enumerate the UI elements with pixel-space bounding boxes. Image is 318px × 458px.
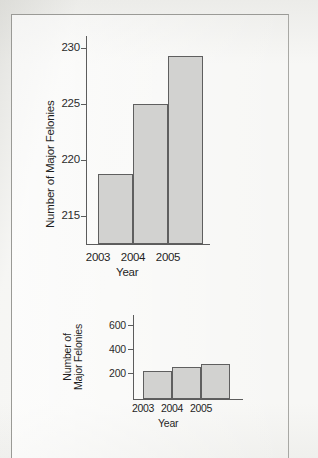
- y-tick-label-400-bottom: 400: [100, 343, 126, 355]
- bar-bottom-2004: [172, 367, 201, 399]
- y-axis-line-bottom: [133, 315, 134, 400]
- bar-chart-top: Number of Major Felonies 230 225 220 215…: [0, 0, 290, 285]
- plot-area-bottom: [133, 315, 243, 400]
- y-tick-label-200-bottom: 200: [100, 367, 126, 379]
- x-axis-title-top: Year: [116, 266, 138, 278]
- y-tick-220-top: [81, 160, 87, 161]
- y-tick-label-230-top: 230: [50, 41, 80, 53]
- y-axis-line-top: [86, 36, 87, 245]
- y-tick-label-225-top: 225: [50, 97, 80, 109]
- x-axis-line-top: [86, 244, 210, 245]
- x-axis-title-bottom: Year: [158, 417, 178, 429]
- x-axis-line-bottom: [133, 399, 243, 400]
- bar-top-2004: [133, 104, 168, 244]
- x-label-2005-top: 2005: [150, 251, 186, 263]
- bar-top-2003: [98, 174, 133, 243]
- y-tick-400-bottom: [128, 349, 134, 350]
- x-label-2004-top: 2004: [115, 251, 151, 263]
- y-axis-title-bottom: Number of Major Felonies: [62, 314, 84, 400]
- y-tick-230-top: [81, 48, 87, 49]
- x-label-2003-top: 2003: [80, 251, 116, 263]
- y-tick-label-215-top: 215: [50, 209, 80, 221]
- y-tick-215-top: [81, 216, 87, 217]
- x-label-2005-bottom: 2005: [184, 402, 218, 414]
- plot-area-top: [86, 36, 210, 245]
- y-axis-title-line2-bottom: Major Felonies: [72, 324, 84, 390]
- bar-bottom-2003: [143, 371, 172, 399]
- y-tick-label-600-bottom: 600: [100, 319, 126, 331]
- bar-top-2005: [168, 56, 203, 244]
- bar-bottom-2005: [201, 364, 230, 399]
- y-tick-225-top: [81, 104, 87, 105]
- y-tick-600-bottom: [128, 325, 134, 326]
- y-tick-200-bottom: [128, 373, 134, 374]
- bar-chart-bottom: Number of Major Felonies 600 400 200 200…: [0, 295, 290, 450]
- y-tick-label-220-top: 220: [50, 153, 80, 165]
